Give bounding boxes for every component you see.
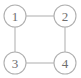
node-label-1: 1	[12, 9, 19, 24]
graph-node-4[interactable]: 4	[54, 52, 76, 74]
graph-canvas: 1 2 3 4	[0, 0, 81, 78]
node-label-4: 4	[62, 56, 69, 71]
graph-node-1[interactable]: 1	[4, 5, 26, 27]
graph-node-2[interactable]: 2	[54, 5, 76, 27]
node-label-3: 3	[12, 56, 19, 71]
node-label-2: 2	[62, 9, 69, 24]
graph-diagram: 1 2 3 4	[0, 0, 81, 78]
graph-node-3[interactable]: 3	[4, 52, 26, 74]
